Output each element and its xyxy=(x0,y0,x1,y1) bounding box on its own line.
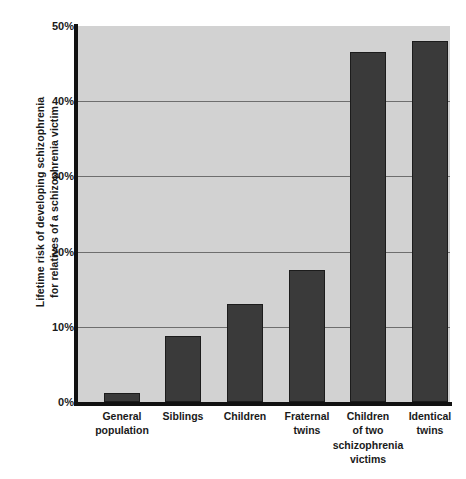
x-label-line: schizophrenia xyxy=(321,438,415,452)
y-tick-label-10: 10% xyxy=(52,321,74,333)
y-tick-label-50: 50% xyxy=(52,20,74,32)
x-label-identical-twins: Identical twins xyxy=(388,409,466,438)
bar-identical-twins xyxy=(412,41,448,402)
x-axis-category-labels: General population Siblings Children Fra… xyxy=(78,409,450,479)
x-label-line: victims xyxy=(321,452,415,466)
bar-general-population xyxy=(104,393,140,402)
bars-layer xyxy=(78,26,450,402)
y-axis-tick-labels: 0% 10% 20% 30% 40% 50% xyxy=(36,26,74,402)
y-tick-label-20: 20% xyxy=(52,246,74,258)
y-tick-label-40: 40% xyxy=(52,95,74,107)
schizophrenia-risk-bar-chart: Lifetime risk of developing schizophreni… xyxy=(0,0,466,479)
x-label-line: Identical xyxy=(388,409,466,423)
bar-children xyxy=(227,304,263,402)
plot-area xyxy=(78,26,450,402)
bar-siblings xyxy=(165,336,201,402)
y-axis-line xyxy=(74,24,78,404)
x-axis-line xyxy=(74,402,452,406)
bar-fraternal-twins xyxy=(289,270,325,402)
x-label-line: population xyxy=(80,423,164,437)
x-label-line: twins xyxy=(388,423,466,437)
y-tick-label-0: 0% xyxy=(58,396,74,408)
y-tick-label-30: 30% xyxy=(52,170,74,182)
bar-children-of-two-schizophrenia-victims xyxy=(350,52,386,402)
